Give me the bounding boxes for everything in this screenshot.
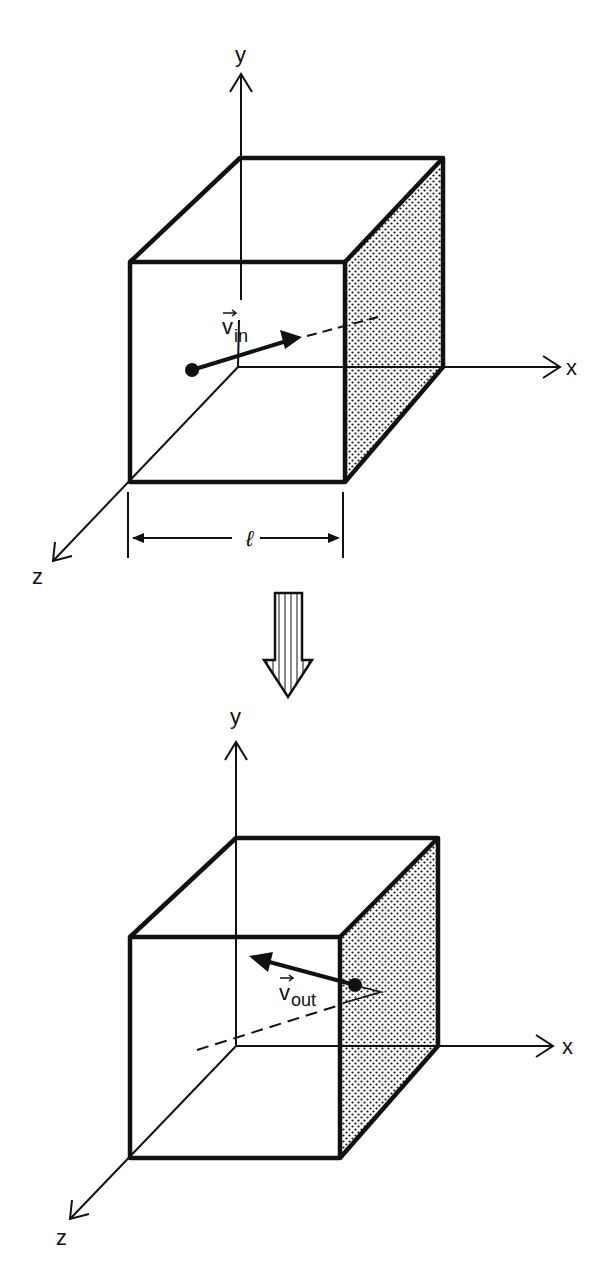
y-axis-label: y — [235, 42, 246, 67]
velocity-symbol: v — [279, 980, 290, 1005]
bottom-panel: v out y x z — [56, 704, 573, 1250]
x-axis-label: x — [562, 1034, 573, 1059]
arrowhead-icon — [280, 330, 302, 349]
velocity-subscript: out — [291, 990, 316, 1010]
dimension-length — [128, 492, 343, 558]
arrowhead-icon — [249, 952, 273, 972]
velocity-symbol: v — [222, 314, 233, 339]
velocity-out-label: v out — [279, 975, 316, 1010]
velocity-subscript: in — [234, 326, 248, 346]
diagram-canvas: v in ℓ y x z — [0, 0, 604, 1277]
y-axis-label: y — [230, 704, 241, 729]
axes-bottom — [70, 742, 553, 1219]
z-axis-label: z — [32, 564, 43, 589]
top-panel: v in ℓ y x z — [32, 42, 577, 589]
shaded-wall-top — [345, 158, 443, 482]
trajectory-dashed — [197, 1005, 340, 1050]
velocity-in-label: v in — [222, 310, 248, 346]
transition-arrow-icon — [264, 593, 312, 697]
z-axis-label: z — [56, 1225, 67, 1250]
particle-dot — [348, 978, 362, 992]
x-axis-label: x — [566, 355, 577, 380]
length-label: ℓ — [245, 526, 254, 551]
